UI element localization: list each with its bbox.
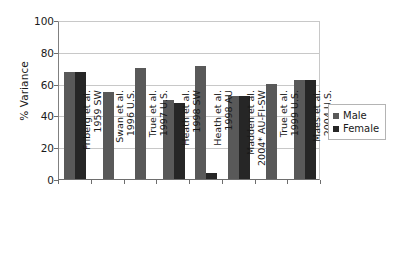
x-tick-label-line2: 1999 U.S. — [289, 90, 300, 186]
y-tick-label: 80 — [20, 48, 54, 59]
x-tick-label-line2: 2004* AU-FI-SW — [256, 90, 267, 186]
x-tick-label-line1: True et al. — [147, 90, 158, 186]
x-tick-label-line2: 1959 SW — [92, 90, 103, 186]
x-tick-label-line1: Maes et al. — [311, 90, 322, 186]
x-tick-label-line1: Heath et al. — [180, 90, 191, 186]
legend-label: Male — [343, 109, 367, 122]
legend-swatch-icon — [333, 126, 339, 132]
variance-bar-chart: % Variance 020406080100 Friberg et al.19… — [0, 0, 396, 279]
x-tick-label-line1: Madden et al. — [245, 90, 256, 186]
y-tick-label: 60 — [20, 80, 54, 91]
x-tick-label: Heath et al.1998 SW — [180, 90, 202, 186]
x-tick-label: Friberg et al.1959 SW — [81, 90, 103, 186]
x-tick-label: Swan et al.1996 U.S. — [114, 90, 136, 186]
x-tick-label-line1: Swan et al. — [114, 90, 125, 186]
legend-label: Female — [343, 122, 379, 135]
chart-legend: MaleFemale — [328, 104, 386, 140]
x-tick-label: Madden et al.2004* AU-FI-SW — [245, 90, 267, 186]
x-axis-labels: Friberg et al.1959 SWSwan et al.1996 U.S… — [0, 180, 396, 279]
x-tick-label-line1: Friberg et al. — [81, 90, 92, 186]
legend-swatch-icon — [333, 113, 339, 119]
bar-male — [266, 84, 277, 179]
x-tick-label-line1: Heath et al. — [212, 90, 223, 186]
x-tick-label-line2: 1997 U.S. — [158, 90, 169, 186]
legend-item-female: Female — [333, 122, 379, 135]
x-tick-label-line2: 1998 SW — [191, 90, 202, 186]
x-tick-label-line1: True et al. — [278, 90, 289, 186]
bar-male — [135, 68, 146, 179]
bar-male — [64, 72, 75, 179]
x-tick-label: Heath et al.1998 AU — [212, 90, 234, 186]
bar-male — [103, 92, 114, 179]
x-tick-label-line2: 1998 AU — [223, 90, 234, 186]
y-tick-label: 100 — [20, 16, 54, 27]
y-tick-label: 20 — [20, 143, 54, 154]
x-tick-label: True et al.1999 U.S. — [278, 90, 300, 186]
y-tick-label: 40 — [20, 111, 54, 122]
x-tick-label: True et al.1997 U.S. — [147, 90, 169, 186]
y-axis-title: % Variance — [18, 21, 30, 161]
x-tick-label-line2: 1996 U.S. — [125, 90, 136, 186]
legend-item-male: Male — [333, 109, 379, 122]
